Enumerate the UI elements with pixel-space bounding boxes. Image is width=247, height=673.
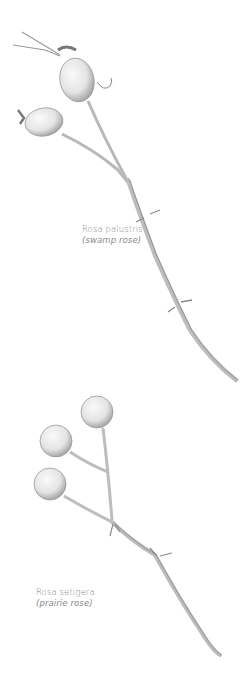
rose-hips-illustration <box>0 0 247 673</box>
swamp-rose-latin-name: Rosa palustris <box>82 224 143 235</box>
swamp-rose-caption: Rosa palustris (swamp rose) <box>82 224 143 246</box>
prairie-rose-drawing <box>34 396 221 655</box>
prairie-rose-latin-name: Rosa setigera <box>36 587 95 598</box>
swamp-rose-drawing <box>13 32 238 380</box>
prairie-rose-common-name: (prairie rose) <box>36 598 95 609</box>
swamp-rose-common-name: (swamp rose) <box>82 235 143 246</box>
prairie-rose-caption: Rosa setigera (prairie rose) <box>36 587 95 609</box>
